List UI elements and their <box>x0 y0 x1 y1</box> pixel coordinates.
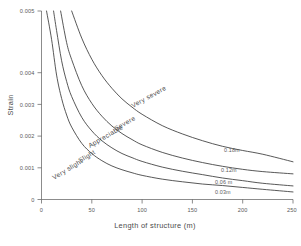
y-tick-label-3: 0.003 <box>20 102 35 108</box>
x-tick-label-3: 150 <box>188 207 198 213</box>
end-label-0-12m: 0.12m <box>221 167 237 173</box>
curve-0-06m <box>54 11 293 186</box>
x-tick-label-4: 200 <box>238 207 248 213</box>
x-tick-label-1: 50 <box>89 207 96 213</box>
y-tick-marks <box>38 11 42 200</box>
x-tick-marks <box>42 200 294 204</box>
x-tick-label-5: 250 <box>287 207 297 213</box>
end-label-0-18m: 0.18m <box>224 147 240 153</box>
y-tick-labels: 0 0.001 0.002 0.003 0.004 0.005 <box>20 8 35 203</box>
strain-vs-length-chart: 0 0.001 0.002 0.003 0.004 0.005 0 50 100… <box>0 0 301 246</box>
curve-0-03m <box>47 11 293 192</box>
x-tick-label-2: 100 <box>137 207 147 213</box>
x-axis-title: Length of structure (m) <box>114 221 196 230</box>
y-tick-label-5: 0.005 <box>20 8 35 14</box>
chart-canvas: 0 0.001 0.002 0.003 0.004 0.005 0 50 100… <box>0 0 301 246</box>
y-tick-label-2: 0.002 <box>20 133 35 139</box>
x-tick-label-0: 0 <box>40 207 43 213</box>
y-tick-label-0: 0 <box>31 197 34 203</box>
end-label-0-06m: 0.06 m <box>215 179 233 185</box>
band-label-very-slight: Very slight <box>51 157 85 182</box>
damage-band-labels: Very severe Severe Appreciable Slight Ve… <box>51 84 168 182</box>
curve-0-12m <box>61 11 293 174</box>
curve-group <box>47 11 293 192</box>
x-tick-labels: 0 50 100 150 200 250 <box>40 207 297 213</box>
end-label-0-03m: 0.03m <box>215 189 231 195</box>
y-tick-label-1: 0.001 <box>20 165 35 171</box>
y-tick-label-4: 0.004 <box>20 70 35 76</box>
curve-end-labels: 0.18m 0.12m 0.06 m 0.03m <box>215 147 240 195</box>
y-axis-title: Strain <box>6 94 15 115</box>
band-label-appreciable: Appreciable <box>87 123 125 149</box>
band-label-very-severe: Very severe <box>130 84 168 110</box>
